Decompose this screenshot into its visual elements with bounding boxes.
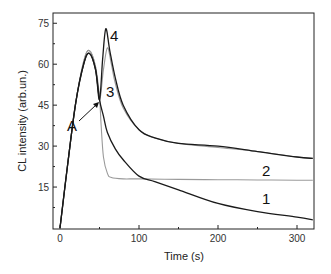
curve-label-1: 1 — [262, 190, 270, 207]
y-tick-label: 15 — [38, 182, 50, 193]
curve-label-4: 4 — [110, 27, 118, 44]
curve-label-3: 3 — [106, 83, 114, 100]
series-line-2 — [60, 50, 313, 228]
y-tick-label: 45 — [38, 100, 50, 111]
plot-frame — [53, 13, 314, 229]
annotation-a-arrow — [79, 102, 99, 121]
y-axis-title: CL intensity (arb.un.) — [16, 70, 28, 172]
y-tick-label: 60 — [38, 59, 50, 70]
curve-label-2: 2 — [262, 162, 270, 179]
x-tick-label: 100 — [131, 233, 148, 244]
x-tick-label: 0 — [57, 233, 63, 244]
annotation-a: A — [67, 117, 77, 134]
series-line-4 — [60, 29, 313, 228]
y-tick-label: 30 — [38, 141, 50, 152]
axis-ticks: 15304560750100200300 — [38, 18, 306, 244]
series-group — [60, 29, 313, 228]
line-chart: 15304560750100200300 A 1 2 3 4 Time (s) … — [0, 0, 331, 274]
x-tick-label: 300 — [289, 233, 306, 244]
x-tick-label: 200 — [210, 233, 227, 244]
series-line-3 — [60, 48, 313, 228]
y-tick-label: 75 — [38, 18, 50, 29]
x-axis-title: Time (s) — [164, 250, 204, 262]
